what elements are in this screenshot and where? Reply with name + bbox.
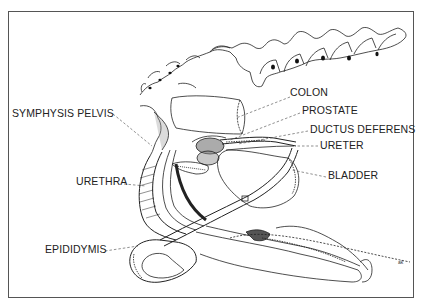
label-symphysis-pelvis: SYMPHYSIS PELVIS	[12, 108, 114, 119]
label-bladder: BLADDER	[328, 170, 378, 181]
bladder-shape	[217, 150, 298, 208]
leader-symphysis-pelvis	[113, 114, 152, 146]
label-urethra: URETHRA	[76, 176, 127, 187]
colon-shape	[171, 83, 245, 134]
label-epididymis: EPIDIDYMIS	[45, 244, 107, 255]
leader-colon	[236, 97, 290, 118]
label-ureter: URETER	[320, 140, 364, 151]
artist-signature: ak	[398, 259, 403, 265]
testis-epididymis-shape	[130, 240, 197, 283]
ductus-ureter-tubes	[220, 137, 296, 150]
label-ductus-deferens: DUCTUS DEFERENS	[310, 124, 415, 135]
label-prostate: PROSTATE	[302, 105, 358, 116]
symphysis-pelvis-shape	[140, 106, 169, 156]
urethra-shape	[139, 150, 208, 240]
leader-prostate	[230, 113, 300, 140]
leader-bladder	[292, 170, 326, 177]
anatomy-drawing	[0, 0, 421, 305]
penis-shape	[196, 226, 410, 282]
label-colon: COLON	[290, 87, 328, 98]
vertebral-column	[140, 27, 406, 95]
